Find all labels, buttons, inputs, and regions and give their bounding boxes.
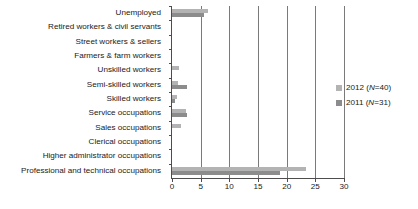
value-tick-label: 30 <box>339 183 348 191</box>
category-label: Unemployed <box>0 6 165 20</box>
category-tick <box>169 92 172 93</box>
legend-swatch-icon <box>336 85 342 91</box>
bar-series-group <box>172 6 344 178</box>
legend-label: 2012 (N=40) <box>346 84 391 92</box>
bar-row <box>172 135 344 149</box>
value-axis: 051015202530 <box>172 178 344 198</box>
bar-row <box>172 78 344 92</box>
bar-row <box>172 164 344 178</box>
bar-2011 <box>172 113 187 117</box>
bar-row <box>172 63 344 77</box>
value-tick-label: 20 <box>282 183 291 191</box>
category-tick <box>169 78 172 79</box>
value-tick-label: 25 <box>311 183 320 191</box>
category-tick <box>169 49 172 50</box>
bar-2012 <box>172 66 179 70</box>
bar-row <box>172 35 344 49</box>
category-tick <box>169 6 172 7</box>
category-label: Semi-skilled workers <box>0 78 165 92</box>
bar-2012 <box>172 124 181 128</box>
bar-row <box>172 149 344 163</box>
category-label: Higher administrator occupations <box>0 149 165 163</box>
bar-2011 <box>172 171 280 175</box>
bar-row <box>172 20 344 34</box>
category-label: Farmers & farm workers <box>0 49 165 63</box>
value-tick-label: 10 <box>225 183 234 191</box>
category-label: Unskilled workers <box>0 63 165 77</box>
value-tick-label: 15 <box>253 183 262 191</box>
category-tick <box>169 106 172 107</box>
plot-area <box>172 6 344 178</box>
category-label: Skilled workers <box>0 92 165 106</box>
bar-row <box>172 92 344 106</box>
category-tick <box>169 121 172 122</box>
bar-row <box>172 106 344 120</box>
legend-item: 2011 (N=31) <box>336 99 391 107</box>
category-label: Retired workers & civil servants <box>0 20 165 34</box>
legend-item: 2012 (N=40) <box>336 84 391 92</box>
category-label: Street workers & sellers <box>0 35 165 49</box>
chart-legend: 2012 (N=40)2011 (N=31) <box>336 84 391 107</box>
category-tick <box>169 35 172 36</box>
legend-swatch-icon <box>336 100 342 106</box>
category-label: Clerical occupations <box>0 135 165 149</box>
category-label: Professional and technical occupations <box>0 164 165 178</box>
bar-2011 <box>172 13 204 17</box>
value-tick-label: 5 <box>198 183 203 191</box>
category-tick <box>169 149 172 150</box>
bar-row <box>172 49 344 63</box>
bar-row <box>172 6 344 20</box>
category-tick <box>169 164 172 165</box>
category-tick <box>169 20 172 21</box>
bar-2011 <box>172 99 175 103</box>
value-tick-label: 0 <box>170 183 175 191</box>
category-tick <box>169 63 172 64</box>
category-axis-labels: UnemployedRetired workers & civil servan… <box>0 6 165 178</box>
horizontal-bar-chart: UnemployedRetired workers & civil servan… <box>0 0 418 209</box>
bar-row <box>172 121 344 135</box>
category-label: Service occupations <box>0 106 165 120</box>
bar-2011 <box>172 85 187 89</box>
category-tick <box>169 135 172 136</box>
legend-label: 2011 (N=31) <box>346 99 391 107</box>
category-label: Sales occupations <box>0 121 165 135</box>
